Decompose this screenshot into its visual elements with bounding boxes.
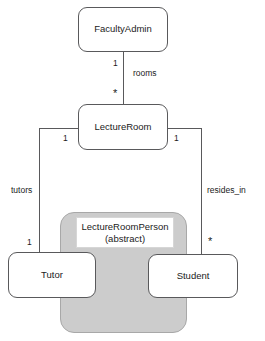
class-node-faculty-admin[interactable]: FacultyAdmin [78,7,168,52]
class-node-tutor[interactable]: Tutor [8,252,96,298]
multiplicity-tutors-target: 1 [27,238,32,247]
multiplicity-tutors-source: 1 [63,134,68,143]
class-node-student[interactable]: Student [148,254,238,298]
edge-label-tutors: tutors [11,186,32,195]
class-node-lecture-room[interactable]: LectureRoom [78,104,168,150]
uml-class-diagram: LectureRoomPerson (abstract) FacultyAdmi… [0,0,265,341]
abstract-class-lecture-room-person-label: LectureRoomPerson (abstract) [76,217,174,248]
class-node-student-label: Student [177,271,210,282]
multiplicity-resides-in-target: * [208,236,212,247]
class-node-tutor-label: Tutor [41,270,63,281]
class-node-faculty-admin-label: FacultyAdmin [94,24,152,35]
multiplicity-rooms-target: * [113,88,117,99]
abstract-class-stereotype: (abstract) [105,233,145,245]
multiplicity-rooms-source: 1 [113,59,118,68]
multiplicity-resides-in-source: 1 [174,134,179,143]
edge-label-rooms: rooms [133,69,157,78]
abstract-class-name: LectureRoomPerson [81,221,168,233]
edge-label-resides-in: resides_in [207,186,246,195]
class-node-lecture-room-label: LectureRoom [94,122,151,133]
